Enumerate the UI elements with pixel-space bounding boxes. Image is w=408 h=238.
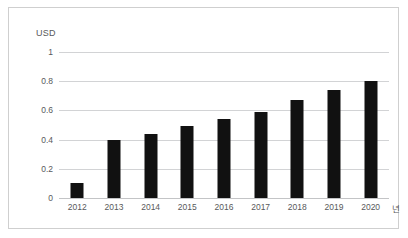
x-axis-tick-label: 2012: [60, 202, 94, 212]
bar[interactable]: [218, 119, 231, 198]
x-axis-tick-label: 2019: [317, 202, 351, 212]
bar[interactable]: [181, 126, 194, 198]
x-axis-tick-label: 2020: [354, 202, 388, 212]
x-axis-tick-label: 2016: [207, 202, 241, 212]
bar[interactable]: [364, 81, 377, 198]
y-axis-tick-label: 0.8: [41, 76, 53, 86]
x-axis-tick-label: 2013: [97, 202, 131, 212]
y-axis-tick-label: 0.2: [41, 164, 53, 174]
x-axis-tick-label: 2017: [244, 202, 278, 212]
x-axis-unit-label: 년: [392, 202, 400, 214]
plot-area: 00.20.40.60.81: [59, 52, 389, 198]
bar[interactable]: [328, 90, 341, 198]
y-axis-tick-label: 0.4: [41, 135, 53, 145]
chart-frame: USD 00.20.40.60.81 201220132014201520162…: [8, 7, 399, 229]
y-axis-tick-label: 0.6: [41, 105, 53, 115]
bar-slot: [244, 52, 278, 198]
y-axis-tick-label: 0: [48, 193, 53, 203]
bar-slot: [280, 52, 314, 198]
bar-slot: [134, 52, 168, 198]
x-axis-tick-label: 2015: [170, 202, 204, 212]
bar[interactable]: [291, 100, 304, 198]
bar-slot: [170, 52, 204, 198]
x-axis-tick-label: 2018: [280, 202, 314, 212]
bar[interactable]: [71, 183, 84, 198]
chart-figure: USD 00.20.40.60.81 201220132014201520162…: [0, 0, 408, 238]
gridline: 0: [59, 198, 389, 199]
y-axis-tick-label: 1: [48, 47, 53, 57]
bar[interactable]: [108, 140, 121, 198]
bar[interactable]: [144, 134, 157, 198]
x-axis-tick-label: 2014: [134, 202, 168, 212]
bar-slot: [207, 52, 241, 198]
bar-series: [59, 52, 389, 198]
x-axis-tick-labels: 201220132014201520162017201820192020: [59, 202, 389, 218]
y-axis-title: USD: [36, 28, 56, 38]
bar-slot: [97, 52, 131, 198]
bar-slot: [317, 52, 351, 198]
bar-slot: [60, 52, 94, 198]
bar-slot: [354, 52, 388, 198]
bar[interactable]: [254, 112, 267, 198]
